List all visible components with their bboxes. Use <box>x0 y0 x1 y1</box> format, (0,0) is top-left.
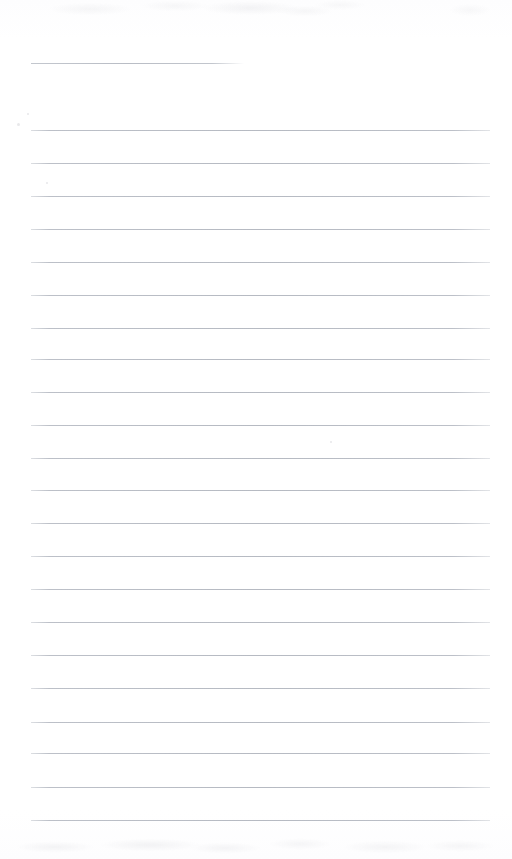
rule-5 <box>31 229 490 230</box>
ruled-lines-group <box>0 0 512 859</box>
rule-19 <box>31 688 490 689</box>
rule-2 <box>31 130 490 131</box>
rule-11 <box>31 425 490 426</box>
rule-14 <box>31 523 490 524</box>
rule-20 <box>31 722 490 723</box>
rule-9 <box>31 359 490 360</box>
rule-1 <box>31 63 244 64</box>
rule-7 <box>31 295 490 296</box>
rule-17 <box>31 622 490 623</box>
rule-12 <box>31 458 490 459</box>
rule-18 <box>31 655 490 656</box>
rule-4 <box>31 196 490 197</box>
rule-8 <box>31 328 490 329</box>
rule-15 <box>31 556 490 557</box>
rule-21 <box>31 753 490 754</box>
rule-13 <box>31 490 490 491</box>
scanned-page <box>0 0 512 859</box>
rule-22 <box>31 787 490 788</box>
rule-23 <box>31 820 490 821</box>
rule-16 <box>31 589 490 590</box>
rule-3 <box>31 163 490 164</box>
rule-10 <box>31 392 490 393</box>
rule-6 <box>31 262 490 263</box>
